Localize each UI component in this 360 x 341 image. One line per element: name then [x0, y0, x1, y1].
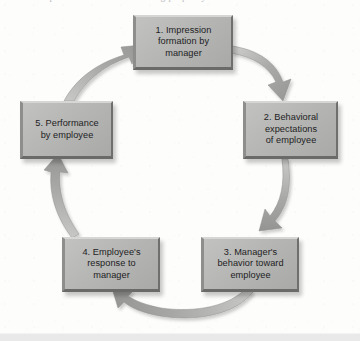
cycle-step-1: 1. Impression formation by manager — [133, 15, 233, 70]
cycle-step-2: 2. Behavioral expectations of employee — [243, 101, 338, 159]
cycle-step-3: 3. Manager's behavior toward employee — [201, 237, 299, 292]
bottom-divider-band — [0, 333, 360, 341]
figure-canvas: the process of the self-fulfilling proph… — [0, 0, 360, 341]
cycle-step-5-label: 5. Performance by employee — [35, 118, 99, 141]
cycle-step-2-label: 2. Behavioral expectations of employee — [264, 112, 318, 147]
cycle-step-3-label: 3. Manager's behavior toward employee — [217, 247, 283, 282]
arrow-1-to-2 — [231, 46, 291, 101]
cycle-step-4-label: 4. Employee's response to manager — [82, 247, 140, 282]
cycle-step-5: 5. Performance by employee — [20, 101, 113, 159]
arrow-4-to-5 — [44, 154, 79, 238]
cycle-step-4: 4. Employee's response to manager — [62, 237, 160, 292]
arrow-2-to-3 — [259, 159, 289, 231]
arrow-5-to-1 — [64, 45, 142, 101]
cycle-step-1-label: 1. Impression formation by manager — [156, 25, 212, 60]
